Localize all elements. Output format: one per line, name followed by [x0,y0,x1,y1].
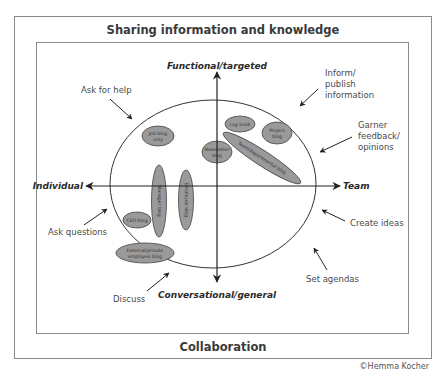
svg-text:Inform/: Inform/ [325,68,356,78]
axis-label-bottom: Conversational/general [158,290,277,300]
svg-text:Team/departmental blog: Team/departmental blog [236,140,287,175]
svg-text:feedback/: feedback/ [358,131,400,141]
annotation-inform: Inform/ publish information [325,68,374,100]
svg-text:External/private: External/private [127,248,164,253]
svg-text:Manager blog: Manager blog [157,185,162,217]
annotation-discuss: Discuss [113,294,146,304]
annotation-ask-questions: Ask questions [48,227,108,237]
blog-job [142,126,174,146]
credit: ©Hemma Kocher [360,362,430,371]
annotation-create-ideas: Create ideas [350,218,404,228]
svg-text:Job blog: Job blog [148,131,168,136]
svg-text:Log book: Log book [230,122,251,127]
bottom-title: Collaboration [179,340,266,354]
axis-label-right: Team [343,181,370,191]
svg-text:employee blog: employee blog [128,254,162,259]
annotation-set-agendas: Set agendas [306,274,359,284]
svg-text:Project: Project [269,128,285,133]
axis-label-left: Individual [33,181,84,191]
blog-project [262,122,292,144]
svg-text:only: only [153,137,163,142]
svg-text:CEO blog: CEO blog [126,218,147,223]
outer-title: Sharing information and knowledge [107,23,340,37]
svg-text:blog: blog [272,134,282,139]
svg-text:Garner: Garner [358,120,388,130]
annotation-garner: Garner feedback/ opinions [358,120,400,152]
blog-shapes: Job blog only Newsletter blog Team/depar… [116,116,305,263]
svg-text:publish: publish [325,79,356,89]
annotation-ask-for-help: Ask for help [81,85,132,95]
svg-text:opinions: opinions [358,142,394,152]
annotation-arrows [84,89,352,291]
diagram-canvas: Sharing information and knowledge Collab… [0,0,446,373]
axis-label-top: Functional/targeted [167,61,268,71]
svg-text:Employee blog: Employee blog [184,183,189,217]
svg-text:information: information [325,90,374,100]
